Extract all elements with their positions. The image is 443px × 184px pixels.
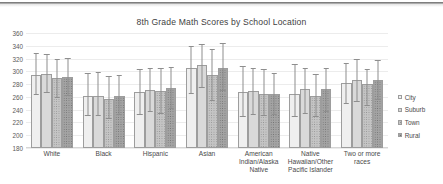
bar-slot [362,33,373,148]
legend-item-rural[interactable]: Rural [398,129,443,142]
error-bar-cap-top [375,60,381,61]
error-bar [367,69,368,105]
error-bar [326,68,327,111]
bar-slot [269,33,280,148]
error-bar-cap-top [85,73,91,74]
error-bar-cap-bottom [168,108,174,109]
error-bar-cap-bottom [137,114,143,115]
bar-slot [134,33,145,148]
y-axis-tick-label: 200 [12,132,23,139]
bar-slot [373,33,384,148]
y-axis-tick-label: 180 [12,145,23,152]
error-bar-cap-bottom [272,114,278,115]
x-axis-tick-label: Asian [181,150,233,175]
plot-area: 360340320300280260240220200180 [26,33,388,148]
error-bar-cap-bottom [106,118,112,119]
error-bar [171,67,172,109]
bar-slot [341,33,352,148]
error-bar-cap-bottom [313,116,319,117]
error-bar-cap-bottom [302,113,308,114]
error-bar-cap-top [344,63,350,64]
error-bar-cap-bottom [44,92,50,93]
bar-slot [259,33,270,148]
x-axis-tick-label: American Indian/Alaska Native [233,150,285,175]
bar-slot [93,33,104,148]
legend-label: City [405,94,416,101]
bar-slot [41,33,52,148]
error-bar-cap-bottom [54,97,60,98]
bar-slot [166,33,177,148]
error-bar [294,64,295,116]
bar-slot [186,33,197,148]
error-bar-cap-bottom [158,113,164,114]
bar-slot [83,33,94,148]
bar-group [285,33,337,148]
error-bar-cap-top [261,69,267,70]
error-bar [315,74,316,117]
chart-title: 8th Grade Math Scores by School Location [0,17,443,27]
legend-item-city[interactable]: City [398,91,443,104]
legend-swatch-icon [398,95,402,99]
error-bar-cap-bottom [65,95,71,96]
y-axis-tick-label: 280 [12,81,23,88]
bar-slot [310,33,321,148]
legend-item-suburb[interactable]: Suburb [398,104,443,117]
error-bar [263,69,264,116]
error-bar-cap-bottom [240,116,246,117]
chart-legend: CitySuburbTownRural [398,91,443,141]
error-bar-cap-top [251,68,257,69]
error-bar-cap-top [240,66,246,67]
legend-item-town[interactable]: Town [398,116,443,129]
error-bar-cap-bottom [220,90,226,91]
bar-slot [52,33,63,148]
error-bar [274,73,275,115]
error-bar [305,68,306,113]
error-bar-cap-bottom [33,94,39,95]
error-bar-cap-top [96,72,102,73]
legend-swatch-icon [398,133,402,137]
error-bar [191,46,192,94]
y-axis-tick-label: 340 [12,42,23,49]
y-axis-tick-label: 220 [12,119,23,126]
y-axis-tick-label: 260 [12,93,23,100]
error-bar-cap-bottom [199,87,205,88]
bar-slot [300,33,311,148]
bar-slot [197,33,208,148]
x-axis-tick-label: Two or more races [336,150,388,175]
y-axis-tick-label: 300 [12,68,23,75]
error-bar-cap-top [158,68,164,69]
bar-groups [26,33,388,148]
chart-screenshot: 8th Grade Math Scores by School Location… [0,0,443,184]
error-bar [377,60,378,100]
error-bar-cap-top [220,43,226,44]
error-bar-cap-top [199,44,205,45]
x-axis-tick-label: Black [78,150,130,175]
bar-slot [321,33,332,148]
x-axis-labels: WhiteBlackHispanicAsianAmerican Indian/A… [26,150,388,175]
error-bar-cap-top [302,68,308,69]
chart-container: 8th Grade Math Scores by School Location… [0,7,443,184]
error-bar-cap-top [323,68,329,69]
bar-group [233,33,285,148]
bar-slot [155,33,166,148]
error-bar [108,76,109,119]
y-axis-tick-label: 360 [12,30,23,37]
bar-group [181,33,233,148]
bar-slot [207,33,218,148]
x-axis-tick-label: Native Hawaiian/Other Pacific Islander [285,150,337,175]
error-bar-cap-top [354,59,360,60]
error-bar-cap-bottom [96,115,102,116]
error-bar-cap-top [210,49,216,50]
error-bar-cap-bottom [344,103,350,104]
error-bar [87,73,88,116]
error-bar [222,43,223,92]
error-bar-cap-bottom [261,115,267,116]
bar-slot [238,33,249,148]
error-bar-cap-top [313,74,319,75]
bar-slot [31,33,42,148]
error-bar [46,54,47,93]
error-bar [356,59,357,102]
gridline [26,148,388,149]
bar-group [129,33,181,148]
legend-swatch-icon [398,108,402,112]
